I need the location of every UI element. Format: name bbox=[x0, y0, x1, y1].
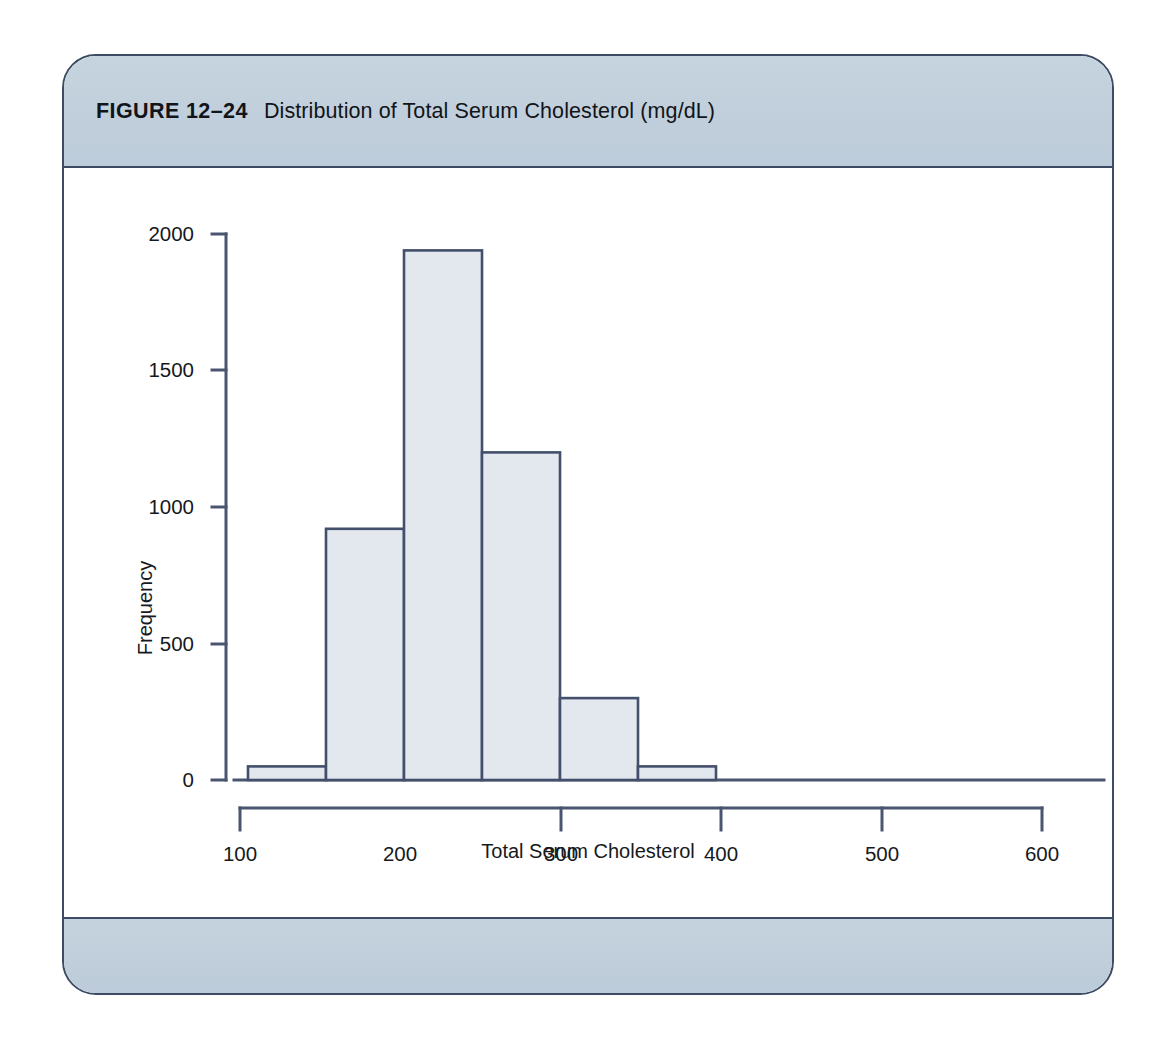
figure-caption-text: Distribution of Total Serum Cholesterol … bbox=[264, 99, 715, 123]
bar-bin-150-200 bbox=[326, 529, 404, 780]
figure-footer-band bbox=[64, 917, 1112, 993]
histogram-bars bbox=[248, 250, 716, 780]
figure-header-band: FIGURE 12–24 Distribution of Total Serum… bbox=[64, 56, 1112, 168]
chart-plot-area: 2000 1500 1000 500 0 Frequency 100 200 3… bbox=[64, 168, 1112, 918]
x-axis-title: Total Serum Cholesterol bbox=[64, 840, 1112, 863]
bar-bin-300-350 bbox=[560, 698, 638, 780]
y-tick-label-1500: 1500 bbox=[104, 360, 194, 381]
chart-vector-layer bbox=[64, 168, 1112, 918]
y-axis bbox=[212, 234, 226, 780]
bar-bin-200-250 bbox=[404, 250, 482, 780]
bar-bin-350-400 bbox=[638, 766, 716, 780]
y-tick-label-2000: 2000 bbox=[104, 224, 194, 245]
y-tick-label-0: 0 bbox=[104, 770, 194, 791]
histogram-chart: 2000 1500 1000 500 0 Frequency 100 200 3… bbox=[64, 168, 1112, 918]
y-axis-title: Frequency bbox=[134, 508, 157, 708]
bar-bin-100-150 bbox=[248, 766, 326, 780]
figure-container: FIGURE 12–24 Distribution of Total Serum… bbox=[62, 54, 1114, 995]
x-axis bbox=[240, 808, 1042, 830]
figure-caption: FIGURE 12–24 Distribution of Total Serum… bbox=[96, 99, 715, 124]
bar-bin-250-300 bbox=[482, 452, 560, 780]
figure-number: FIGURE 12–24 bbox=[96, 99, 248, 123]
